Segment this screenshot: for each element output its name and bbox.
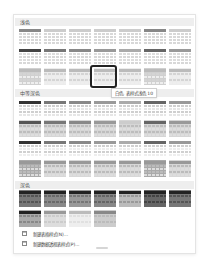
table-style-option[interactable] — [119, 100, 141, 117]
table-style-option[interactable] — [69, 160, 91, 177]
style-row-line — [144, 201, 166, 203]
table-style-option[interactable] — [94, 100, 116, 117]
table-style-option[interactable] — [19, 120, 41, 137]
table-style-option[interactable] — [144, 160, 166, 177]
table-style-option[interactable] — [169, 100, 191, 117]
style-row-line — [119, 79, 141, 81]
table-style-option[interactable] — [119, 28, 141, 45]
style-row-line — [119, 76, 141, 78]
table-style-option[interactable] — [119, 190, 141, 207]
table-style-option[interactable] — [94, 48, 116, 65]
table-style-option[interactable] — [44, 100, 66, 117]
table-style-option[interactable] — [94, 28, 116, 45]
style-row-line — [119, 125, 141, 127]
style-row-line — [169, 76, 191, 78]
style-row-line — [19, 221, 41, 223]
table-style-option[interactable] — [69, 140, 91, 157]
style-row-line — [69, 171, 91, 173]
table-style-option[interactable] — [169, 120, 191, 137]
style-row-line — [44, 141, 66, 144]
table-style-option[interactable] — [94, 210, 116, 227]
table-style-option[interactable] — [19, 190, 41, 207]
table-style-option[interactable] — [144, 28, 166, 45]
table-style-option[interactable] — [144, 48, 166, 65]
table-style-option[interactable] — [44, 140, 66, 157]
table-style-option[interactable] — [169, 28, 191, 45]
table-style-option[interactable] — [19, 100, 41, 117]
style-row-line — [144, 131, 166, 133]
style-row-line — [144, 111, 166, 113]
style-row-line — [44, 105, 66, 107]
table-style-option[interactable] — [94, 160, 116, 177]
style-row-line — [119, 165, 141, 167]
table-style-option[interactable] — [19, 68, 41, 85]
style-row-line — [94, 33, 116, 35]
table-style-option[interactable] — [44, 68, 66, 85]
table-style-option[interactable] — [69, 120, 91, 137]
style-row-line — [169, 39, 191, 41]
table-style-option[interactable] — [169, 140, 191, 157]
table-style-option[interactable] — [44, 160, 66, 177]
table-style-option[interactable] — [144, 140, 166, 157]
style-row-line — [44, 168, 66, 170]
table-style-option[interactable] — [119, 48, 141, 65]
table-style-option[interactable] — [169, 68, 191, 85]
table-style-option[interactable] — [44, 28, 66, 45]
table-style-option[interactable] — [119, 160, 141, 177]
style-row-line — [44, 204, 66, 206]
style-row-line — [144, 73, 166, 75]
style-row-line — [44, 201, 66, 203]
table-style-option[interactable] — [119, 140, 141, 157]
table-style-option[interactable] — [144, 100, 166, 117]
style-row-line — [19, 154, 41, 156]
table-style-option[interactable] — [19, 48, 41, 65]
table-style-option[interactable] — [19, 160, 41, 177]
style-row-line — [119, 36, 141, 38]
style-row-line — [19, 62, 41, 64]
style-row-line — [69, 42, 91, 44]
table-style-option[interactable] — [19, 210, 41, 227]
section-header-medium: 中等深色 — [15, 89, 194, 97]
style-row-line — [69, 161, 91, 164]
resize-grip[interactable] — [96, 247, 108, 249]
table-style-option[interactable] — [69, 100, 91, 117]
style-row-line — [19, 165, 41, 167]
style-row-line — [44, 29, 66, 32]
table-style-option[interactable] — [144, 120, 166, 137]
table-style-option[interactable] — [69, 68, 91, 85]
style-row-line — [119, 33, 141, 35]
table-style-option[interactable] — [144, 190, 166, 207]
style-row-line — [144, 148, 166, 150]
table-style-option[interactable] — [169, 160, 191, 177]
new-table-style-menu-item[interactable]: 新建表格样式(N)... — [22, 229, 68, 238]
table-style-option[interactable] — [94, 190, 116, 207]
new-pivot-style-menu-item[interactable]: 新建数据透视表样式(P)... — [22, 239, 80, 248]
table-style-option[interactable] — [44, 190, 66, 207]
table-style-option[interactable] — [44, 120, 66, 137]
table-style-option[interactable] — [94, 120, 116, 137]
table-style-option[interactable] — [44, 210, 66, 227]
table-style-option[interactable] — [44, 48, 66, 65]
style-row-line — [94, 56, 116, 58]
style-row-line — [144, 108, 166, 110]
style-row-line — [169, 36, 191, 38]
table-style-option[interactable] — [69, 210, 91, 227]
table-style-option[interactable] — [94, 140, 116, 157]
table-style-option[interactable] — [119, 68, 141, 85]
table-style-option[interactable] — [69, 48, 91, 65]
style-row-line — [44, 69, 66, 72]
table-style-option[interactable] — [19, 140, 41, 157]
style-row-line — [144, 101, 166, 104]
table-style-option[interactable] — [119, 120, 141, 137]
table-style-option[interactable] — [144, 68, 166, 85]
style-row-line — [169, 161, 191, 164]
style-row-line — [69, 69, 91, 72]
style-row-line — [94, 49, 116, 52]
style-row-line — [169, 171, 191, 173]
table-style-option[interactable] — [169, 190, 191, 207]
table-style-option[interactable] — [69, 28, 91, 45]
table-style-option[interactable] — [19, 28, 41, 45]
table-style-option[interactable] — [169, 48, 191, 65]
style-row-line — [169, 198, 191, 200]
table-style-option[interactable] — [69, 190, 91, 207]
